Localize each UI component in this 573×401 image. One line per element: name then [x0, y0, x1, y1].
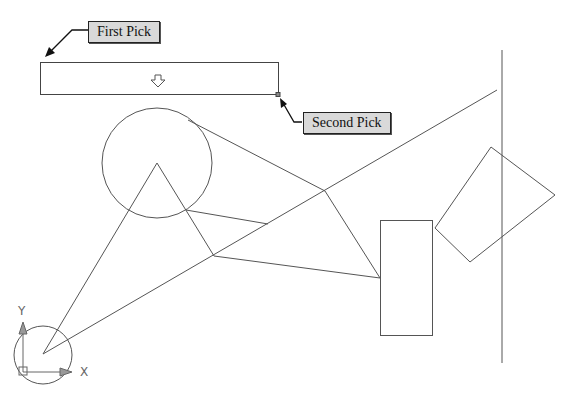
second-pick-callout: Second Pick: [303, 112, 391, 134]
line-origin-to-apex[interactable]: [43, 163, 157, 354]
upright-rectangle[interactable]: [381, 221, 433, 336]
line-vertex-to-rect[interactable]: [325, 191, 380, 278]
line-apex-to-vertex[interactable]: [157, 163, 214, 256]
second-pick-leader: [283, 103, 302, 122]
drawing-canvas[interactable]: [0, 0, 573, 401]
line-lower-to-rect[interactable]: [214, 256, 380, 278]
rotated-rectangle[interactable]: [435, 147, 555, 262]
ucs-x-label: X: [80, 365, 88, 379]
line-origin-to-far[interactable]: [43, 90, 497, 354]
line-circle-to-diagonal[interactable]: [186, 210, 268, 224]
ucs-y-label: Y: [18, 304, 25, 318]
second-pick-grip[interactable]: [276, 93, 280, 97]
first-pick-callout: First Pick: [88, 21, 160, 43]
down-arrow-icon: [151, 75, 165, 87]
first-pick-leader: [50, 30, 88, 52]
second-pick-arrowhead: [280, 98, 287, 108]
